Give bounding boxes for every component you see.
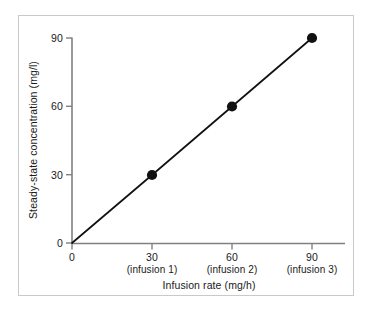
x-tick-label-0: 0: [69, 251, 75, 263]
x-tick-label-30: 30: [146, 251, 158, 263]
y-tick-label-90: 90: [42, 32, 63, 44]
y-tick-label-60: 60: [42, 100, 63, 112]
y-tick-label-0: 0: [42, 237, 63, 249]
y-tick-label-30: 30: [42, 169, 63, 181]
data-point-marker: [147, 170, 157, 180]
chart-figure: 90 60 30 0 0 30 60 90 (infusion 1) (infu…: [0, 0, 368, 317]
y-axis-title: Steady-state concentration (mg/l): [27, 61, 39, 219]
x-sub-label-infusion-1: (infusion 1): [127, 264, 178, 275]
x-tick-label-60: 60: [226, 251, 238, 263]
x-tick-label-90: 90: [306, 251, 318, 263]
data-line-series: [72, 38, 312, 243]
x-axis-title: Infusion rate (mg/h): [162, 279, 255, 291]
data-point-marker: [227, 101, 237, 111]
x-sub-label-infusion-3: (infusion 3): [287, 264, 338, 275]
data-point-marker: [307, 33, 317, 43]
x-sub-label-infusion-2: (infusion 2): [207, 264, 258, 275]
